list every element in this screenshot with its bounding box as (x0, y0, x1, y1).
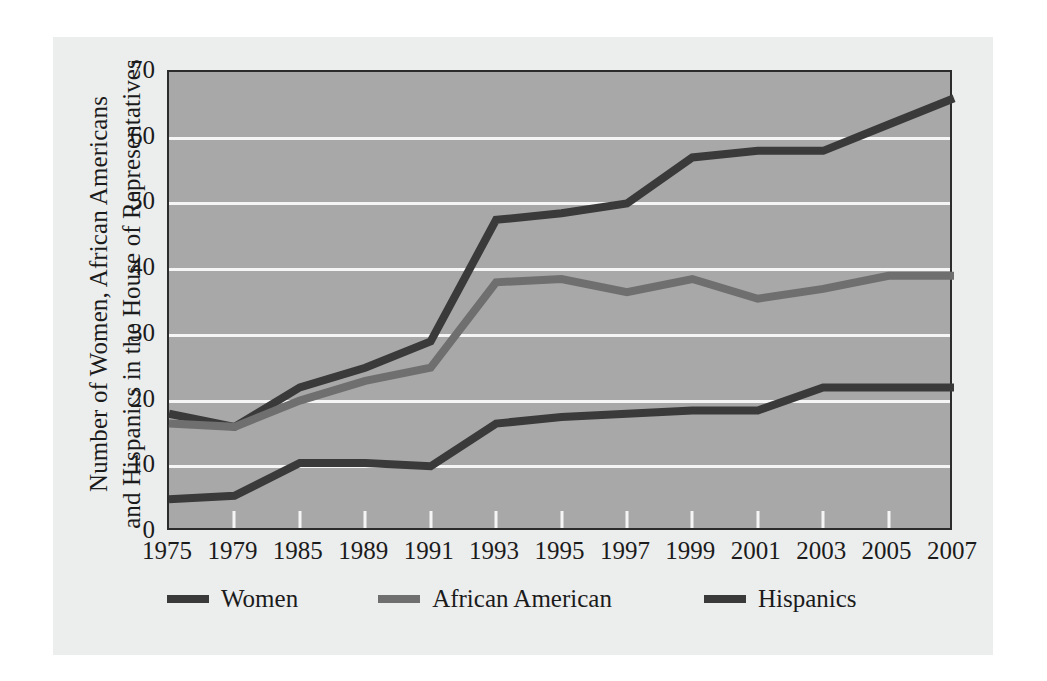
y-axis-tick-label: 70 (105, 56, 155, 84)
legend-swatch-icon (167, 595, 209, 603)
x-axis-tick-label: 1999 (665, 537, 715, 565)
figure-panel: Number of Women, African Americans and H… (53, 37, 993, 655)
x-axis-tick-label: 2001 (731, 537, 781, 565)
x-axis-tick-label: 2005 (862, 537, 912, 565)
y-axis-tick-label: 50 (105, 187, 155, 215)
legend-label: Hispanics (758, 585, 857, 613)
legend-label: African American (432, 585, 612, 613)
x-axis-tick-label: 1997 (600, 537, 650, 565)
x-axis-tick-label: 1979 (207, 537, 257, 565)
y-axis-tick-label: 60 (105, 122, 155, 150)
y-axis-tick-label: 40 (105, 253, 155, 281)
series-line-women (169, 98, 954, 427)
chart-legend: WomenAfrican AmericanHispanics (167, 585, 787, 613)
x-axis-tick-label: 1995 (535, 537, 585, 565)
y-axis-title-line-1: Number of Women, African Americans (82, 96, 115, 492)
y-axis-tick-label: 20 (105, 385, 155, 413)
legend-label: Women (221, 585, 298, 613)
line-chart: Number of Women, African Americans and H… (53, 37, 993, 655)
legend-swatch-icon (378, 595, 420, 603)
series-lines (169, 72, 954, 532)
plot-area (167, 70, 952, 530)
x-axis-tick-label: 2007 (927, 537, 977, 565)
x-axis-tick-label: 1991 (404, 537, 454, 565)
x-axis-tick-label: 1975 (142, 537, 192, 565)
series-line-african-american (169, 276, 954, 427)
x-axis-tick-label: 2003 (796, 537, 846, 565)
x-axis-tick-label: 1985 (273, 537, 323, 565)
legend-swatch-icon (704, 595, 746, 603)
legend-entry[interactable]: Hispanics (704, 585, 857, 613)
x-axis-tick-label: 1993 (469, 537, 519, 565)
y-axis-tick-label: 10 (105, 450, 155, 478)
x-axis-tick-label: 1989 (338, 537, 388, 565)
legend-entry[interactable]: African American (378, 585, 612, 613)
y-axis-tick-label: 30 (105, 319, 155, 347)
legend-entry[interactable]: Women (167, 585, 298, 613)
